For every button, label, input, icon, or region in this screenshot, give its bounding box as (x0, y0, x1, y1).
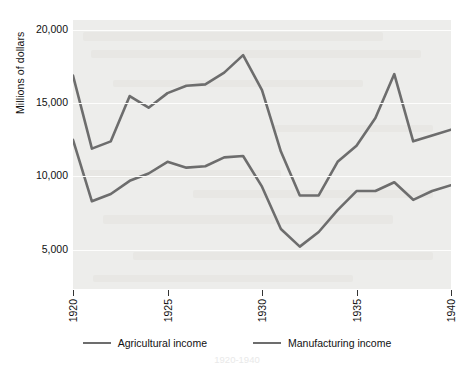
x-axis-tick-mark (451, 290, 452, 296)
legend-label: Agricultural income (118, 337, 207, 349)
y-axis-title: Millions of dollars (14, 100, 26, 114)
legend-line-swatch-icon (253, 342, 281, 345)
x-axis-tick-mark (168, 290, 169, 296)
figure-caption: 1920-1940 (0, 354, 474, 365)
gridline (73, 176, 451, 177)
y-axis-tick-label: 5,000 (26, 243, 68, 255)
chart-figure: Millions of dollars 20,00015,00010,0005,… (0, 0, 474, 365)
legend-item-manufacturing-income[interactable]: Manufacturing income (253, 337, 391, 349)
x-axis-tick-label: 1925 (162, 299, 174, 322)
x-axis-tick-label: 1920 (67, 299, 79, 322)
plot-area (73, 20, 451, 289)
y-axis-tick-label: 20,000 (26, 23, 68, 35)
y-axis-tick-label: 10,000 (26, 169, 68, 181)
x-axis-tick-mark (73, 290, 74, 296)
y-axis-tick-label: 15,000 (26, 96, 68, 108)
y-axis-tick-labels: 20,00015,00010,0005,000 (26, 0, 68, 365)
series-line (73, 140, 451, 247)
gridline (73, 103, 451, 104)
legend-line-swatch-icon (83, 342, 111, 345)
legend-item-agricultural-income[interactable]: Agricultural income (83, 337, 207, 349)
series-line (73, 55, 451, 195)
legend-label: Manufacturing income (288, 337, 391, 349)
x-axis-tick-mark (357, 290, 358, 296)
x-axis-tick-label: 1940 (445, 299, 457, 322)
gridline (73, 30, 451, 31)
x-axis-tick-mark (262, 290, 263, 296)
gridline (73, 250, 451, 251)
chart-legend: Agricultural income Manufacturing income (0, 334, 474, 352)
x-axis-tick-label: 1935 (351, 299, 363, 322)
x-axis-tick-label: 1930 (256, 299, 268, 322)
